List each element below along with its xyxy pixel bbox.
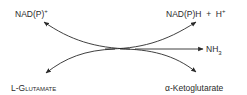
arrow-to-ketoglutarate [120, 49, 196, 72]
label-nadp-oxidized: NAD(P)+ [15, 9, 48, 19]
nh3-subscript: 3 [218, 50, 221, 56]
nadph-text: NAD(P)H + H [166, 9, 222, 19]
nadp-charge: + [44, 8, 48, 14]
arrow-to-nadp [44, 22, 130, 49]
nh3-text: NH [206, 44, 218, 54]
label-ketoglutarate: α-Ketoglutarate [165, 83, 223, 93]
arrow-to-glutamate [46, 49, 115, 73]
glutamate-text: L-Glutamate [11, 83, 56, 93]
label-nh3: NH3 [206, 44, 222, 54]
ketoglutarate-text: α-Ketoglutarate [165, 83, 223, 93]
nadp-text: NAD(P) [15, 9, 44, 19]
label-nadph: NAD(P)H + H+ [166, 9, 225, 19]
proton-charge: + [222, 8, 226, 14]
label-glutamate: L-Glutamate [11, 83, 56, 93]
arrow-to-nadph [105, 22, 196, 49]
